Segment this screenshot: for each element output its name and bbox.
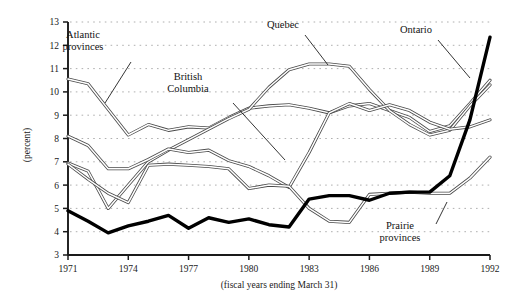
x-tick-label-1992: 1992	[481, 264, 500, 274]
x-tick-label-1977: 1977	[179, 264, 198, 274]
x-tick-label-1983: 1983	[300, 264, 319, 274]
y-tick-label-10: 10	[50, 87, 60, 97]
x-axis-label: (fiscal years ending March 31)	[221, 280, 338, 291]
y-tick-label-12: 12	[50, 41, 60, 51]
x-tick-label-1980: 1980	[239, 264, 258, 274]
annotation-label-line1: Prairie	[386, 220, 414, 231]
y-tick-label-9: 9	[54, 111, 59, 121]
y-axis-label: (percent)	[22, 128, 33, 162]
annotation-label-line1: British	[174, 71, 203, 82]
y-tick-label-11: 11	[50, 64, 59, 74]
annotation-label-line1: Atlantic	[66, 29, 100, 40]
y-tick-label-5: 5	[54, 204, 59, 214]
y-tick-label-7: 7	[54, 157, 59, 167]
x-tick-label-1971: 1971	[59, 264, 78, 274]
annotation-label-line1: Quebec	[267, 19, 299, 30]
y-tick-label-4: 4	[54, 227, 59, 237]
x-tick-label-1989: 1989	[420, 264, 439, 274]
annotation-label-line1: Ontario	[400, 24, 432, 35]
annotation-label-line2: provinces	[63, 41, 104, 52]
y-tick-label-8: 8	[54, 134, 59, 144]
chart-container: 345678910111213 197119741977198019831986…	[0, 0, 521, 296]
y-tick-label-6: 6	[54, 181, 59, 191]
unemployment-rate-line-chart: 345678910111213 197119741977198019831986…	[0, 0, 521, 296]
annotation-label-line2: provinces	[380, 232, 421, 243]
y-tick-label-13: 13	[50, 17, 60, 27]
x-tick-label-1974: 1974	[119, 264, 138, 274]
x-tick-label-1986: 1986	[360, 264, 379, 274]
annotation-label-line2: Columbia	[167, 83, 209, 94]
y-tick-label-3: 3	[54, 250, 59, 260]
